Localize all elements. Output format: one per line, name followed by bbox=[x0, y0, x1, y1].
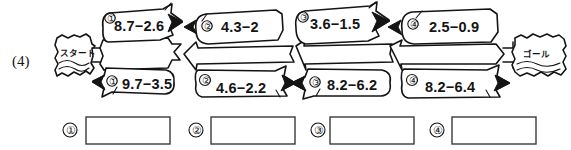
answer-item-1[interactable]: ① bbox=[63, 117, 170, 144]
path-segment-1: 8.7−2.6 ① 9.7−3.5 ① bbox=[92, 3, 183, 97]
marker-3-bottom: ③ bbox=[312, 77, 321, 88]
equation-banner-1-bottom: 9.7−3.5 ① bbox=[92, 68, 174, 97]
marker-1-bottom: ① bbox=[109, 76, 118, 87]
goal-label: ゴール bbox=[523, 49, 550, 59]
equation-1-top: 8.7−2.6 bbox=[114, 18, 164, 34]
answer-row: ① ② ③ ④ bbox=[63, 117, 536, 144]
answer-box-2[interactable] bbox=[211, 117, 295, 144]
answer-item-4[interactable]: ④ bbox=[430, 117, 536, 144]
equation-3-top: 3.6−1.5 bbox=[310, 16, 360, 32]
marker-4-bottom: ④ bbox=[409, 75, 418, 86]
equation-2-bottom: 4.6−2.2 bbox=[216, 80, 266, 96]
answer-box-1[interactable] bbox=[86, 117, 170, 144]
answer-item-2[interactable]: ② bbox=[189, 117, 295, 144]
equation-banner-2-top: 4.3−2 ② bbox=[184, 10, 283, 44]
answer-marker-3: ③ bbox=[314, 124, 324, 136]
marker-1-top: ① bbox=[107, 13, 116, 24]
marker-3-top: ③ bbox=[300, 12, 309, 23]
answer-marker-4: ④ bbox=[433, 124, 443, 136]
marker-2-top: ② bbox=[204, 21, 213, 32]
equation-1-bottom: 9.7−3.5 bbox=[122, 76, 172, 92]
equation-banner-4-bottom: 8.2−6.4 ④ bbox=[401, 65, 510, 98]
answer-box-3[interactable] bbox=[330, 117, 414, 144]
equation-2-top: 4.3−2 bbox=[221, 19, 259, 35]
question-number: (4) bbox=[12, 53, 30, 70]
equation-4-top: 2.5−0.9 bbox=[429, 19, 479, 35]
maze-diagram: (4) スタート 8.7−2.6 ① bbox=[0, 0, 571, 150]
answer-marker-1: ① bbox=[66, 124, 76, 136]
goal-banner: ゴール bbox=[503, 34, 566, 76]
path-segment-4: 2.5−0.9 ④ 8.2−6.4 ④ bbox=[388, 9, 510, 98]
equation-4-bottom: 8.2−6.4 bbox=[425, 79, 475, 95]
answer-item-3[interactable]: ③ bbox=[311, 117, 414, 144]
answer-marker-2: ② bbox=[192, 124, 202, 136]
start-label: スタート bbox=[60, 48, 96, 58]
equation-banner-2-bottom: 4.6−2.2 ② bbox=[195, 66, 296, 97]
equation-banner-3-top: 3.6−1.5 ③ bbox=[296, 2, 390, 44]
equation-3-bottom: 8.2−6.2 bbox=[327, 77, 377, 93]
marker-2-bottom: ② bbox=[202, 75, 211, 86]
worksheet-page: (4) スタート 8.7−2.6 ① bbox=[0, 0, 571, 150]
path-segment-3: 3.6−1.5 ③ 8.2−6.2 ③ bbox=[291, 2, 393, 99]
start-banner: スタート bbox=[55, 34, 104, 76]
equation-banner-4-top: 2.5−0.9 ④ bbox=[388, 9, 498, 44]
equation-banner-3-bottom: 8.2−6.2 ③ bbox=[291, 69, 390, 99]
equation-banner-1-top: 8.7−2.6 ① bbox=[103, 3, 183, 42]
path-segment-2: 4.3−2 ② 4.6−2.2 ② bbox=[184, 10, 296, 97]
marker-4-top: ④ bbox=[410, 19, 419, 30]
answer-box-4[interactable] bbox=[452, 117, 536, 144]
